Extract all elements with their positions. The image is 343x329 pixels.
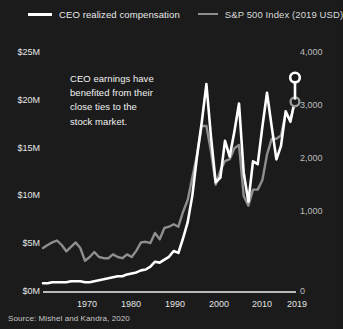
legend-label-ceo-compensation: CEO realized compensation [59,9,180,20]
source-note: Source: Mishel and Kandra, 2020 [8,314,130,323]
annotation-line-3: close ties to the [70,100,188,114]
annotation-line-2: benefited from their [70,86,188,100]
x-axis-tick-2000: 2000 [209,299,229,309]
x-axis-tick-2019: 2019 [287,299,307,309]
legend-label-sp500: S&P 500 Index (2019 USD) [225,9,343,20]
end-marker-ceo-compensation [290,73,300,83]
legend-swatch-sp500 [198,13,218,15]
x-axis-tick-1990: 1990 [165,299,185,309]
x-axis-tick-1980: 1980 [121,299,141,309]
annotation-line-1: CEO earnings have [70,72,188,86]
chart-legend: CEO realized compensation S&P 500 Index … [0,0,339,28]
x-axis-tick-1970: 1970 [77,299,97,309]
x-axis-tick-2010: 2010 [252,299,272,309]
legend-item-sp500: S&P 500 Index (2019 USD) [198,9,343,20]
plot-area [0,28,339,303]
legend-swatch-ceo-compensation [28,13,52,16]
annotation-line-4: stock market. [70,115,188,129]
legend-item-ceo-compensation: CEO realized compensation [28,9,180,20]
chart-svg [0,28,339,303]
chart-annotation: CEO earnings have benefited from their c… [70,72,188,129]
